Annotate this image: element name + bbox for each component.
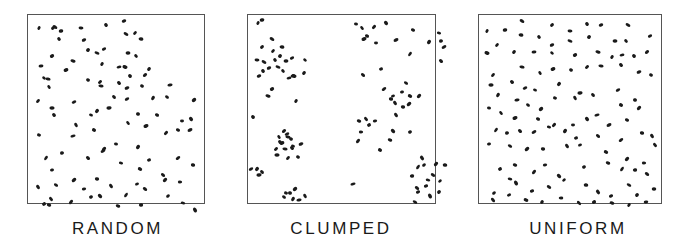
dot: [642, 161, 646, 164]
dot: [487, 142, 492, 146]
dot: [139, 203, 144, 207]
dot: [608, 194, 613, 198]
dot: [56, 36, 61, 41]
dot: [606, 122, 612, 127]
dot: [512, 163, 517, 168]
dot: [42, 76, 47, 81]
dot: [164, 95, 169, 100]
dot: [584, 116, 590, 122]
dot: [290, 196, 295, 202]
dot: [484, 50, 490, 55]
dot: [572, 52, 578, 57]
dot: [390, 128, 396, 134]
dot: [137, 166, 143, 171]
dot: [282, 147, 287, 150]
dot: [122, 64, 128, 69]
dot: [644, 200, 649, 203]
dot: [549, 22, 554, 27]
dot: [103, 22, 108, 27]
dot: [506, 193, 511, 197]
dot: [439, 39, 443, 43]
dot: [146, 66, 151, 71]
dot: [612, 39, 617, 42]
dot: [410, 174, 415, 178]
dot: [387, 138, 392, 142]
dot: [150, 95, 155, 101]
dot: [191, 97, 197, 103]
dot: [584, 183, 589, 187]
dot: [562, 178, 567, 183]
dot: [259, 44, 264, 49]
dot: [91, 127, 96, 132]
dot: [610, 54, 615, 59]
dot: [586, 34, 591, 40]
dot: [518, 33, 523, 37]
dot: [536, 34, 541, 39]
dot: [68, 199, 74, 205]
dot: [511, 49, 516, 54]
dot: [490, 197, 496, 203]
dot: [631, 53, 636, 58]
dot: [46, 203, 51, 208]
dot: [624, 39, 629, 44]
dot: [275, 65, 281, 70]
dot: [546, 184, 552, 189]
dot: [441, 44, 447, 49]
dot: [624, 156, 630, 162]
dot: [383, 20, 389, 26]
clumped-dots-plot: [248, 15, 435, 203]
dot: [373, 119, 377, 122]
dot: [175, 155, 181, 160]
dot: [488, 83, 493, 87]
dot: [248, 167, 254, 172]
dot: [85, 47, 90, 53]
dot: [425, 178, 430, 182]
dot: [519, 65, 525, 69]
dot: [354, 22, 358, 25]
dot: [437, 31, 442, 35]
uniform-label: UNIFORM: [524, 219, 632, 239]
dot: [415, 190, 420, 194]
dot: [154, 113, 159, 118]
dot: [38, 64, 43, 68]
dot: [81, 38, 86, 43]
dot: [88, 195, 93, 200]
dot: [647, 34, 652, 39]
dot: [89, 113, 94, 117]
dot: [400, 90, 405, 94]
dot: [281, 69, 286, 74]
dot: [256, 74, 261, 79]
dot: [407, 51, 412, 57]
dot: [374, 42, 378, 45]
dot: [116, 65, 121, 69]
dot: [538, 70, 543, 75]
dot: [493, 127, 498, 133]
dot: [270, 48, 275, 53]
dot: [584, 21, 589, 26]
dot: [254, 58, 259, 61]
dot: [522, 86, 528, 91]
dot: [414, 185, 420, 191]
dot: [433, 161, 439, 167]
dot: [95, 177, 100, 181]
random-pattern-frame: [27, 14, 205, 204]
dot: [285, 155, 290, 160]
dot: [73, 122, 78, 128]
dot: [71, 177, 77, 183]
dot: [135, 144, 141, 150]
dot: [562, 128, 568, 134]
dot: [178, 180, 182, 183]
dot: [572, 95, 577, 101]
dot: [97, 79, 102, 84]
random-label: RANDOM: [70, 219, 165, 239]
dot: [421, 163, 426, 168]
dot: [281, 195, 286, 200]
dot: [541, 147, 546, 151]
dot: [559, 196, 564, 199]
dot: [261, 59, 267, 64]
dot: [619, 166, 624, 172]
dot: [45, 77, 51, 81]
dot: [165, 194, 170, 199]
dot: [574, 136, 579, 140]
dot: [595, 189, 601, 195]
